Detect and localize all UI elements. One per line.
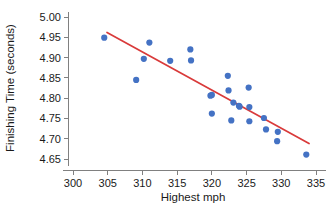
y-axis-tick-label: 4.85 bbox=[40, 72, 61, 84]
x-axis-tick-label: 335 bbox=[307, 177, 325, 189]
scatter-point bbox=[237, 104, 243, 110]
scatter-point bbox=[230, 100, 236, 106]
scatter-point bbox=[146, 39, 152, 45]
y-axis-tick-label: 5.00 bbox=[40, 11, 61, 23]
data-points bbox=[101, 35, 309, 158]
scatter-point bbox=[225, 87, 231, 93]
y-axis-tick-label: 4.75 bbox=[40, 112, 61, 124]
scatter-point bbox=[141, 56, 147, 62]
scatter-point bbox=[303, 151, 309, 157]
y-axis-tick-label: 4.70 bbox=[40, 133, 61, 145]
scatter-point bbox=[275, 129, 281, 135]
scatter-point bbox=[209, 110, 215, 116]
y-axis-title: Finishing Time (seconds) bbox=[4, 24, 16, 152]
x-axis-tick-label: 330 bbox=[272, 177, 290, 189]
y-axis: 4.654.704.754.804.854.904.955.00 bbox=[40, 11, 69, 166]
regression-line bbox=[107, 32, 309, 143]
scatter-point bbox=[133, 77, 139, 83]
scatter-point bbox=[225, 73, 231, 79]
y-axis-tick-label: 4.80 bbox=[40, 92, 61, 104]
scatter-point bbox=[261, 115, 267, 121]
x-axis-tick-label: 320 bbox=[203, 177, 221, 189]
regression-line-segment bbox=[107, 32, 309, 143]
y-axis-tick-label: 4.95 bbox=[40, 31, 61, 43]
x-axis-title: Highest mph bbox=[161, 191, 226, 203]
x-axis-tick-label: 300 bbox=[64, 177, 82, 189]
scatter-point bbox=[246, 84, 252, 90]
scatter-point bbox=[188, 57, 194, 63]
scatter-point bbox=[167, 58, 173, 64]
scatter-point bbox=[274, 138, 280, 144]
plot-canvas: 4.654.704.754.804.854.904.955.00 3003053… bbox=[0, 0, 336, 207]
x-axis: 300305310315320325330335 bbox=[63, 171, 327, 190]
y-axis-tick-label: 4.90 bbox=[40, 52, 61, 64]
scatter-point bbox=[228, 117, 234, 123]
scatter-point bbox=[209, 92, 215, 98]
scatter-point bbox=[246, 118, 252, 124]
scatter-point bbox=[187, 46, 193, 52]
scatter-point bbox=[246, 104, 252, 110]
x-axis-tick-label: 325 bbox=[237, 177, 255, 189]
x-axis-tick-label: 305 bbox=[99, 177, 117, 189]
y-axis-tick-label: 4.65 bbox=[40, 153, 61, 165]
scatter-point bbox=[263, 126, 269, 132]
x-axis-tick-label: 315 bbox=[168, 177, 186, 189]
scatter-plot-figure: 4.654.704.754.804.854.904.955.00 3003053… bbox=[0, 0, 336, 207]
scatter-point bbox=[101, 35, 107, 41]
x-axis-tick-label: 310 bbox=[133, 177, 151, 189]
